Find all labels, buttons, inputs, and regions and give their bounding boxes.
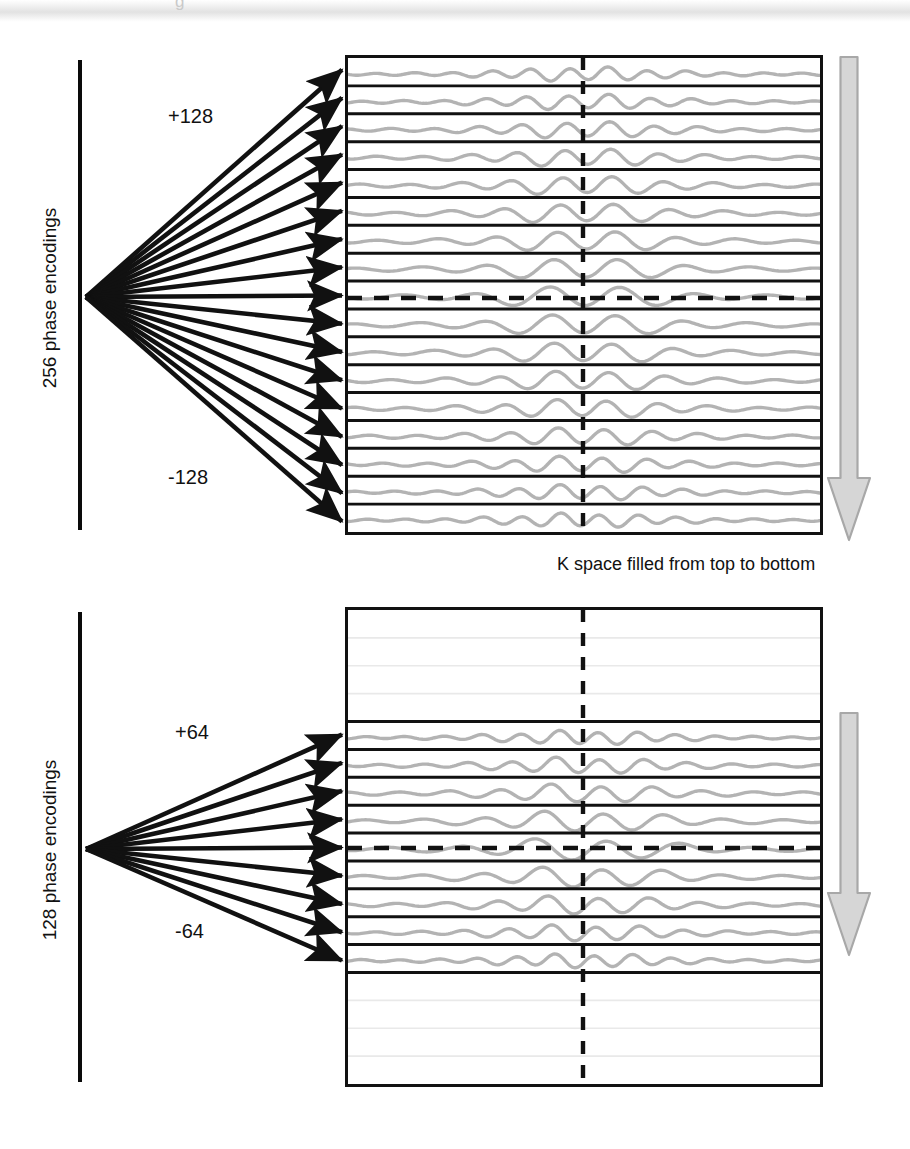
phase-encoding-fan-256: [86, 70, 342, 522]
figure-root: g 256 phase encodings 128 phase encoding…: [0, 0, 910, 1149]
kspace-fill-caption: K space filled from top to bottom: [557, 554, 815, 575]
scan-ghost-text: g: [175, 0, 185, 12]
fill-direction-arrows: [828, 57, 870, 955]
kspace-box-256: [345, 55, 823, 535]
encoding-label-positive-256: +128: [168, 105, 213, 128]
axis-label-256: 256 phase encodings: [39, 188, 61, 408]
scan-artifact-band: [0, 0, 910, 22]
axis-rule-256: [78, 60, 82, 530]
encoding-label-positive-128: +64: [175, 721, 209, 744]
kspace-lines-128: [348, 610, 820, 1084]
kspace-box-128: [345, 607, 823, 1087]
phase-encoding-fan-128: [86, 735, 342, 961]
encoding-label-negative-128: -64: [175, 920, 204, 943]
axis-label-128: 128 phase encodings: [39, 740, 61, 960]
encoding-label-negative-256: -128: [168, 466, 208, 489]
kspace-lines-256: [348, 58, 820, 532]
axis-rule-128: [78, 612, 82, 1082]
